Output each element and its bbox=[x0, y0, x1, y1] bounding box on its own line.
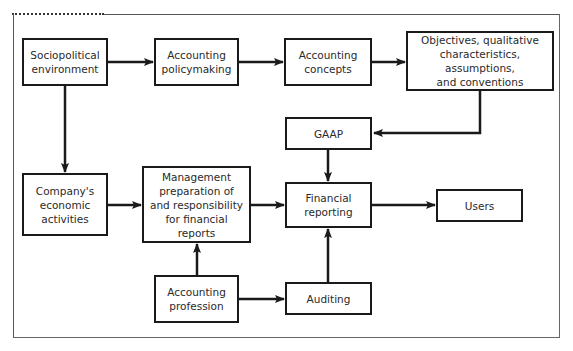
node-auditing: Auditing bbox=[285, 282, 372, 315]
node-label: Accounting policymaking bbox=[162, 48, 232, 76]
node-label: Users bbox=[465, 199, 494, 213]
node-users: Users bbox=[436, 189, 523, 222]
node-sociopolitical-environment: Sociopolitical environment bbox=[22, 38, 108, 86]
node-label: Sociopolitical environment bbox=[30, 48, 99, 76]
node-label: GAAP bbox=[314, 127, 343, 141]
node-accounting-policymaking: Accounting policymaking bbox=[154, 38, 239, 86]
node-gaap: GAAP bbox=[285, 117, 372, 150]
node-label: Accounting profession bbox=[167, 285, 226, 313]
node-management-preparation: Management preparation of and responsibi… bbox=[142, 166, 251, 243]
node-accounting-profession: Accounting profession bbox=[154, 275, 239, 323]
node-label: Management preparation of and responsibi… bbox=[148, 170, 245, 240]
node-label: Financial reporting bbox=[304, 191, 352, 219]
node-label: Accounting concepts bbox=[299, 48, 358, 76]
edge-objectives-gaap bbox=[374, 91, 480, 133]
node-label: Auditing bbox=[307, 292, 351, 306]
node-label: Company's economic activities bbox=[36, 184, 94, 226]
node-accounting-concepts: Accounting concepts bbox=[284, 38, 372, 86]
node-financial-reporting: Financial reporting bbox=[285, 182, 372, 228]
node-company-economic-activities: Company's economic activities bbox=[22, 173, 108, 236]
node-label: Objectives, qualitative characteristics,… bbox=[412, 33, 548, 89]
node-objectives: Objectives, qualitative characteristics,… bbox=[406, 31, 554, 91]
